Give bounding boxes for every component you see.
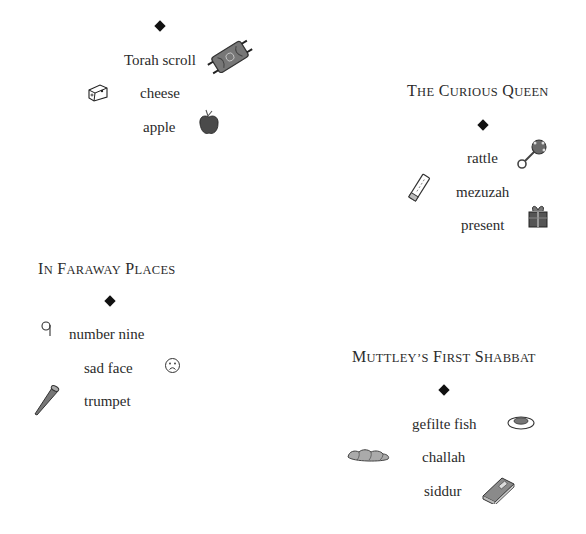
item-apple-label: apple	[143, 119, 175, 136]
diamond-bullet	[438, 384, 449, 395]
section-title: In Faraway Places	[38, 260, 176, 278]
gefilte-fish-icon	[506, 413, 536, 431]
item-siddur-label: siddur	[424, 483, 462, 500]
apple-icon	[198, 108, 220, 136]
diamond-bullet	[154, 20, 165, 31]
diamond-bullet	[477, 119, 488, 130]
sad-face-icon	[164, 357, 181, 374]
section-title: Muttley’s First Shabbat	[352, 348, 536, 366]
item-number-nine-label: number nine	[69, 326, 144, 343]
mezuzah-icon	[406, 172, 432, 204]
rattle-icon	[515, 138, 549, 170]
item-sad-face-label: sad face	[84, 360, 133, 377]
item-trumpet-label: trumpet	[84, 393, 131, 410]
number-nine-icon	[40, 320, 54, 338]
siddur-icon	[480, 474, 518, 504]
item-cheese-label: cheese	[140, 85, 180, 102]
item-rattle-label: rattle	[467, 150, 498, 167]
item-gefilte-fish-label: gefilte fish	[412, 416, 477, 433]
present-icon	[526, 204, 550, 230]
cheese-icon	[86, 82, 110, 104]
item-mezuzah-label: mezuzah	[456, 184, 509, 201]
challah-icon	[345, 446, 391, 464]
item-torah-scroll-label: Torah scroll	[124, 52, 196, 69]
item-challah-label: challah	[422, 449, 465, 466]
trumpet-icon	[32, 382, 62, 416]
diamond-bullet	[104, 295, 115, 306]
torah-scroll-icon	[205, 37, 255, 77]
section-title: The Curious Queen	[407, 82, 549, 100]
item-present-label: present	[461, 217, 504, 234]
